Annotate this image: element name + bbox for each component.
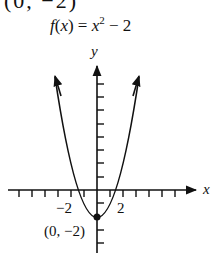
tick-label-neg2: −2 <box>56 200 72 216</box>
vertex-label: (0, −2) <box>44 223 85 240</box>
y-axis-label: y <box>89 43 98 59</box>
parabola-graph: x y −2 2 (0, −2) <box>0 0 220 253</box>
tick-label-2: 2 <box>117 200 125 216</box>
vertex-point <box>94 214 101 221</box>
x-axis-label: x <box>202 181 210 197</box>
